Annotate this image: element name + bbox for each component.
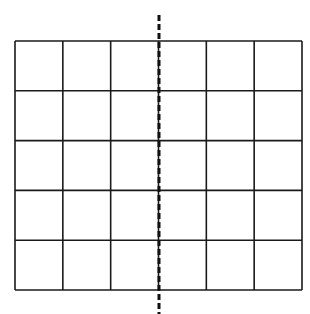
grid-diagram [0,0,310,314]
